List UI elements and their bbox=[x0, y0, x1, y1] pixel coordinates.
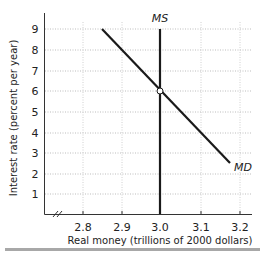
x-ticks bbox=[83, 211, 240, 214]
y-tick-5: 5 bbox=[32, 106, 39, 119]
x-axis-label: Real money (trillions of 2000 dollars) bbox=[68, 235, 253, 246]
y-tick-8: 8 bbox=[32, 44, 39, 57]
vertical-gridlines bbox=[83, 22, 240, 214]
money-market-chart: 9 8 7 6 5 4 3 2 1 2.8 2.9 3.0 3.1 3.2 Re… bbox=[0, 0, 266, 257]
md-curve bbox=[102, 29, 230, 163]
x-tick-2.8: 2.8 bbox=[74, 221, 92, 234]
y-tick-3: 3 bbox=[32, 147, 39, 160]
y-tick-9: 9 bbox=[32, 23, 39, 36]
md-label: MD bbox=[234, 161, 252, 174]
y-tick-labels: 9 8 7 6 5 4 3 2 1 bbox=[32, 23, 39, 201]
equilibrium-point bbox=[157, 88, 163, 94]
y-tick-4: 4 bbox=[32, 127, 39, 140]
x-tick-2.9: 2.9 bbox=[113, 221, 131, 234]
x-tick-3.2: 3.2 bbox=[231, 221, 249, 234]
bottom-divider bbox=[5, 248, 260, 251]
y-tick-1: 1 bbox=[32, 188, 39, 201]
y-tick-7: 7 bbox=[32, 65, 39, 78]
x-tick-3.1: 3.1 bbox=[192, 221, 210, 234]
x-tick-labels: 2.8 2.9 3.0 3.1 3.2 bbox=[74, 221, 249, 234]
x-tick-3.0: 3.0 bbox=[151, 221, 169, 234]
y-tick-6: 6 bbox=[32, 85, 39, 98]
ms-label: MS bbox=[152, 12, 168, 25]
horizontal-gridlines bbox=[45, 29, 252, 194]
y-tick-2: 2 bbox=[32, 168, 39, 181]
y-axis-label: Interest rate (percent per year) bbox=[8, 40, 19, 197]
